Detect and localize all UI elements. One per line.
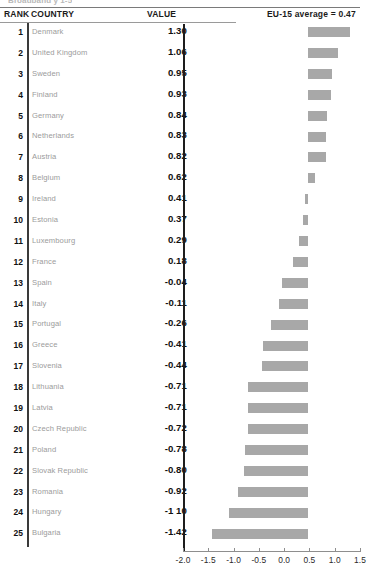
row-rank: 7 <box>10 152 23 162</box>
value-bar <box>238 487 308 497</box>
x-axis-tick <box>208 548 209 552</box>
row-country-name: Belgium <box>32 173 60 182</box>
value-bar <box>303 215 308 225</box>
row-rank: 25 <box>10 528 23 538</box>
value-bar <box>248 424 308 434</box>
value-bar <box>229 508 308 518</box>
row-value: 0.37 <box>147 213 187 224</box>
row-value: 0.95 <box>147 67 187 78</box>
row-rank: 5 <box>10 111 23 121</box>
row-value: 0.82 <box>147 150 187 161</box>
row-country-name: Germany <box>32 111 64 120</box>
row-value: -0.04 <box>147 276 187 287</box>
row-value: 0.84 <box>147 109 187 120</box>
row-value: -0.44 <box>147 359 187 370</box>
row-country-name: Sweden <box>32 69 60 78</box>
row-country-name: Ireland <box>32 194 56 203</box>
row-rank: 9 <box>10 194 23 204</box>
row-value: -1 10 <box>147 505 187 516</box>
row-country-name: Austria <box>32 152 56 161</box>
row-value: -0.41 <box>147 338 187 349</box>
value-bar <box>248 382 308 392</box>
value-bar <box>263 341 308 351</box>
value-bar <box>245 445 308 455</box>
row-value: -0.11 <box>147 297 187 308</box>
row-country-name: Spain <box>32 278 52 287</box>
x-axis-tick <box>259 548 260 552</box>
value-bar <box>279 299 308 309</box>
x-axis-tick <box>360 548 361 552</box>
row-country-name: Slovak Republic <box>32 466 88 475</box>
value-bar <box>212 529 308 539</box>
row-rank: 14 <box>10 299 23 309</box>
x-axis-line <box>183 551 360 552</box>
row-rank: 2 <box>10 48 23 58</box>
column-header-value: VALUE <box>147 9 176 19</box>
row-rank: 3 <box>10 69 23 79</box>
row-value: -0.71 <box>147 401 187 412</box>
header-top-rule <box>0 7 360 8</box>
row-country-name: Czech Republic <box>32 424 87 433</box>
row-country-name: Denmark <box>32 27 64 36</box>
column-header-country: COUNTRY <box>31 9 74 19</box>
column-header-rank: RANK <box>4 9 29 19</box>
row-value: -0.26 <box>147 317 187 328</box>
row-value: -0.92 <box>147 485 187 496</box>
row-value: -0.72 <box>147 422 187 433</box>
row-country-name: France <box>32 257 56 266</box>
row-rank: 18 <box>10 382 23 392</box>
value-bar <box>271 320 308 330</box>
row-value: -0.71 <box>147 380 187 391</box>
row-country-name: Portugal <box>32 319 61 328</box>
row-value: 1.06 <box>147 46 187 57</box>
x-axis-tick <box>183 548 184 552</box>
value-bar <box>308 132 326 142</box>
row-country-name: Greece <box>32 340 58 349</box>
value-bar <box>308 69 332 79</box>
row-rank: 12 <box>10 257 23 267</box>
row-country-name: Romania <box>32 487 63 496</box>
row-rank: 11 <box>10 236 23 246</box>
row-country-name: Finland <box>32 90 58 99</box>
row-value: 1.30 <box>147 25 187 36</box>
row-rank: 22 <box>10 466 23 476</box>
row-value: 0.62 <box>147 171 187 182</box>
x-axis-tick <box>234 548 235 552</box>
row-rank: 19 <box>10 403 23 413</box>
row-rank: 23 <box>10 487 23 497</box>
value-bar <box>293 257 308 267</box>
row-value: 0.18 <box>147 255 187 266</box>
x-axis-tick <box>335 548 336 552</box>
row-value: 0.29 <box>147 234 187 245</box>
bar-chart-plot-area <box>183 23 360 547</box>
value-bar <box>308 27 350 37</box>
row-country-name: Latvia <box>32 403 53 412</box>
table-header: RANK COUNTRY VALUE EU-15 average = 0.47 <box>0 9 360 22</box>
row-value: -1.42 <box>147 526 187 537</box>
row-value: -0.80 <box>147 464 187 475</box>
row-country-name: Netherlands <box>32 131 74 140</box>
row-rank: 24 <box>10 507 23 517</box>
row-value: 0.41 <box>147 192 187 203</box>
row-country-name: Italy <box>32 299 46 308</box>
row-country-name: Bulgaria <box>32 528 61 537</box>
eu15-average-label: EU-15 average = 0.47 <box>267 9 356 19</box>
row-rank: 6 <box>10 131 23 141</box>
row-value: -0.78 <box>147 443 187 454</box>
row-rank: 16 <box>10 340 23 350</box>
row-rank: 21 <box>10 445 23 455</box>
x-axis-tick-label: 1.5 <box>345 555 371 565</box>
eu15-average-reference-line <box>183 24 185 551</box>
row-country-name: United Kingdom <box>32 48 87 57</box>
value-bar <box>305 194 308 204</box>
row-rank: 15 <box>10 319 23 329</box>
row-country-name: Slovenia <box>32 361 62 370</box>
row-rank: 1 <box>10 27 23 37</box>
value-bar <box>299 236 308 246</box>
value-bar <box>308 90 331 100</box>
row-rank: 10 <box>10 215 23 225</box>
value-bar <box>308 173 316 183</box>
x-axis-tick <box>284 548 285 552</box>
row-country-name: Hungary <box>32 507 61 516</box>
row-country-name: Poland <box>32 445 56 454</box>
